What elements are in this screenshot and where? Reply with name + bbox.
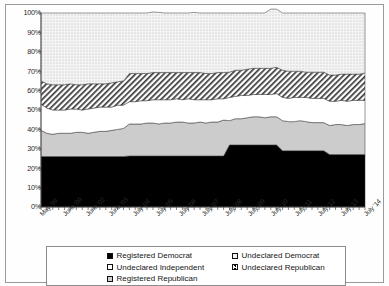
chart-plot-container: 100%90%80%70%60%50%40%30%20%10%0% <box>8 8 381 258</box>
legend-item[interactable]: Registered Democrat <box>107 251 192 260</box>
legend-item[interactable]: Undeclared Republican <box>232 263 325 272</box>
legend-swatch-black-icon <box>107 253 113 259</box>
legend-swatch-dotted-icon <box>232 253 238 259</box>
x-axis-labels: May '99June '00June '02June '03July '04J… <box>8 8 381 58</box>
legend-item-label: Undeclared Republican <box>242 263 325 272</box>
legend-item-label: Registered Democrat <box>117 251 193 260</box>
legend-items-container: Registered DemocratUndeclared DemocratUn… <box>47 247 345 285</box>
legend-item[interactable]: Registered Republican <box>107 274 197 283</box>
legend-item-label: Undeclared Democrat <box>242 251 320 260</box>
legend-swatch-white-icon <box>107 264 113 270</box>
legend-swatch-gray-icon <box>107 276 113 282</box>
legend-swatch-hatch-icon <box>232 264 238 270</box>
legend-item-label: Undeclared Independent <box>117 263 205 272</box>
legend-item-label: Registered Republican <box>117 274 198 283</box>
legend-item[interactable]: Undeclared Democrat <box>232 251 319 260</box>
chart-legend: Registered DemocratUndeclared DemocratUn… <box>46 246 346 286</box>
legend-item[interactable]: Undeclared Independent <box>107 263 204 272</box>
